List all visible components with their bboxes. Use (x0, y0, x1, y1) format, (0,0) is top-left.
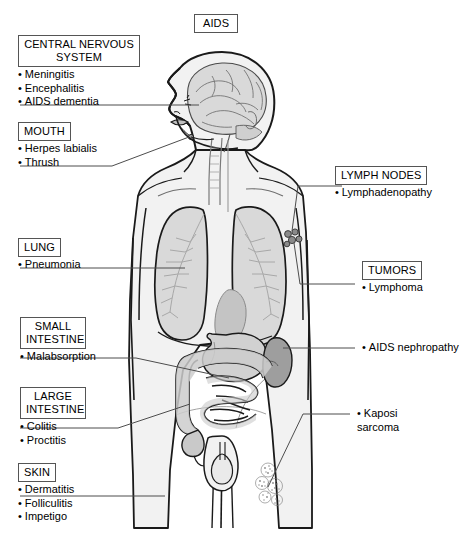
label-items-mouth: Herpes labialis Thrush (18, 142, 97, 169)
label-title-large-intestine: LARGE INTESTINE (20, 387, 86, 419)
label-aids-nephropathy: AIDS nephropathy (362, 341, 459, 355)
label-items-lung: Pneumonia (18, 258, 81, 272)
list-item: AIDS dementia (18, 95, 140, 109)
aids-anatomy-figure: AIDS CENTRAL NERVOUS SYSTEM Meningitis E… (0, 0, 462, 544)
label-group-lymph-nodes: LYMPH NODES Lymphadenopathy (335, 165, 432, 200)
label-title-lung: LUNG (18, 238, 61, 257)
list-item: Pneumonia (18, 258, 81, 272)
label-title-tumors: TUMORS (362, 261, 422, 280)
list-item: Impetigo (18, 510, 74, 524)
small-intestine-shading (200, 376, 258, 430)
brain-outline (188, 63, 267, 134)
list-item: Malabsorption (20, 350, 96, 364)
list-item: Proctitis (20, 434, 86, 448)
label-group-kaposi-sarcoma: Kaposi sarcoma (357, 407, 399, 434)
list-item: Meningitis (18, 68, 140, 82)
label-title-lymph-nodes: LYMPH NODES (335, 166, 427, 185)
label-group-skin: SKIN Dermatitis Folliculitis Impetigo (18, 462, 74, 524)
label-group-central-nervous-system: CENTRAL NERVOUS SYSTEM Meningitis Enceph… (18, 35, 140, 109)
list-item: Herpes labialis (18, 142, 97, 156)
label-items-tumors: Lymphoma (362, 281, 423, 295)
list-item: Lymphoma (362, 281, 423, 295)
figure-title: AIDS (194, 13, 238, 33)
label-kaposi-sarcoma: Kaposi sarcoma (357, 407, 399, 434)
label-group-tumors: TUMORS Lymphoma (362, 260, 423, 295)
label-title-skin: SKIN (18, 463, 56, 482)
label-items-central-nervous-system: Meningitis Encephalitis AIDS dementia (18, 68, 140, 109)
label-title-small-intestine: SMALL INTESTINE (20, 317, 86, 349)
label-title-mouth: MOUTH (18, 122, 71, 141)
label-items-lymph-nodes: Lymphadenopathy (335, 186, 432, 200)
list-item: Folliculitis (18, 497, 74, 511)
label-title-central-nervous-system: CENTRAL NERVOUS SYSTEM (18, 35, 140, 67)
list-item: Dermatitis (18, 483, 74, 497)
list-item: Lymphadenopathy (335, 186, 432, 200)
label-items-skin: Dermatitis Folliculitis Impetigo (18, 483, 74, 524)
cecum (182, 430, 204, 457)
list-item: Colitis (20, 420, 86, 434)
head-group (168, 52, 274, 152)
label-group-aids-nephropathy: AIDS nephropathy (362, 341, 459, 355)
list-item: Encephalitis (18, 82, 140, 96)
appendix (194, 456, 204, 466)
label-items-small-intestine: Malabsorption (20, 350, 96, 364)
label-group-lung: LUNG Pneumonia (18, 237, 81, 272)
label-group-small-intestine: SMALL INTESTINE Malabsorption (20, 317, 96, 364)
figure-title-box: AIDS (194, 14, 238, 33)
label-items-large-intestine: Colitis Proctitis (20, 420, 86, 447)
label-group-mouth: MOUTH Herpes labialis Thrush (18, 121, 97, 169)
list-item: Thrush (18, 156, 97, 170)
label-group-large-intestine: LARGE INTESTINE Colitis Proctitis (20, 387, 86, 447)
